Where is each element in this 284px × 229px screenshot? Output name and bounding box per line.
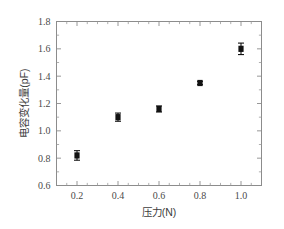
y-tick-label: 1.2 <box>38 98 51 109</box>
y-tick-label: 0.8 <box>38 153 51 164</box>
x-tick-label: 0.8 <box>194 190 207 201</box>
data-point <box>156 106 162 112</box>
y-tick-label: 0.6 <box>38 180 51 191</box>
y-tick-label: 1.6 <box>38 43 51 54</box>
y-tick-label: 1.8 <box>38 16 51 27</box>
y-tick-label: 1.0 <box>38 125 51 136</box>
y-axis-title: 电容变化量(pF) <box>18 68 30 137</box>
x-tick-label: 0.2 <box>71 190 84 201</box>
scatter-plot-svg: 0.60.81.01.21.41.61.8 0.20.40.60.81.0 电容… <box>0 0 284 229</box>
y-tick-label: 1.4 <box>38 71 51 82</box>
x-tick-label: 1.0 <box>235 190 248 201</box>
x-axis-title: 压力(N) <box>142 206 177 218</box>
chart-figure: 0.60.81.01.21.41.61.8 0.20.40.60.81.0 电容… <box>0 0 284 229</box>
data-point <box>197 80 203 86</box>
x-tick-label: 0.6 <box>153 190 166 201</box>
x-tick-label: 0.4 <box>112 190 125 201</box>
data-point <box>115 113 121 121</box>
